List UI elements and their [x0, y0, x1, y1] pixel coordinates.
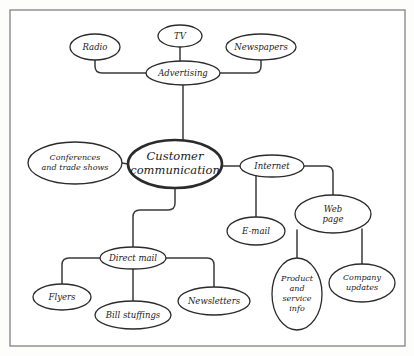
customer-communication-mindmap: RadioTVNewspapersAdvertisingConferencesa…	[0, 0, 414, 356]
node-internet[interactable]: Internet	[240, 155, 304, 177]
node-radio[interactable]: Radio	[70, 34, 120, 60]
node-web_page[interactable]: Webpage	[295, 195, 371, 233]
node-email[interactable]: E-mail	[227, 217, 285, 245]
node-label-direct_mail: Direct mail	[108, 253, 157, 263]
node-company_updates[interactable]: Companyupdates	[329, 264, 395, 302]
node-label-radio: Radio	[82, 42, 108, 52]
node-newsletters[interactable]: Newsletters	[178, 287, 250, 315]
node-advertising[interactable]: Advertising	[146, 61, 220, 85]
node-tv[interactable]: TV	[158, 25, 202, 47]
node-bill_stuffings[interactable]: Bill stuffings	[95, 301, 171, 329]
node-label-newsletters: Newsletters	[187, 296, 241, 306]
diagram-canvas: RadioTVNewspapersAdvertisingConferencesa…	[0, 0, 414, 356]
node-label-advertising: Advertising	[157, 68, 208, 78]
node-customer_communication[interactable]: Customercommunication	[128, 140, 222, 188]
node-label-internet: Internet	[253, 161, 290, 171]
node-label-newspapers: Newspapers	[233, 42, 288, 52]
node-newspapers[interactable]: Newspapers	[226, 34, 296, 60]
node-direct_mail[interactable]: Direct mail	[100, 247, 166, 269]
node-product_service_info[interactable]: Productandserviceinfo	[272, 258, 322, 330]
node-label-flyers: Flyers	[48, 292, 77, 302]
node-label-email: E-mail	[241, 226, 270, 236]
node-flyers[interactable]: Flyers	[33, 284, 91, 310]
node-label-bill_stuffings: Bill stuffings	[105, 310, 161, 320]
node-label-web_page: Webpage	[323, 203, 344, 224]
node-label-company_updates: Companyupdates	[343, 273, 382, 292]
node-conferences[interactable]: Conferencesand trade shows	[28, 142, 122, 184]
node-label-tv: TV	[174, 31, 187, 41]
node-label-conferences: Conferencesand trade shows	[42, 153, 109, 172]
